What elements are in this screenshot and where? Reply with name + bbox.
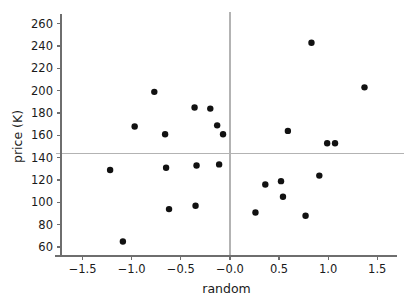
y-axis-ticks-group: 6080100120140160180200220240260 bbox=[31, 17, 61, 254]
data-point bbox=[220, 131, 226, 137]
data-point bbox=[285, 128, 291, 134]
y-tick-label: 200 bbox=[31, 84, 53, 98]
data-point bbox=[332, 140, 338, 146]
y-tick-label: 100 bbox=[31, 195, 53, 209]
data-point bbox=[163, 165, 169, 171]
scatter-plot-figure: −1.5−1.0−0.5−0.00.51.01.5 60801001201401… bbox=[0, 0, 407, 302]
y-tick-label: 80 bbox=[38, 218, 53, 232]
data-point bbox=[308, 39, 314, 45]
y-tick-label: 160 bbox=[31, 128, 53, 142]
data-point bbox=[316, 172, 322, 178]
data-point bbox=[166, 206, 172, 212]
data-point bbox=[192, 203, 198, 209]
y-tick-label: 260 bbox=[31, 17, 53, 31]
x-tick-label: 1.5 bbox=[368, 262, 386, 276]
y-tick-label: 240 bbox=[31, 39, 53, 53]
y-tick-label: 180 bbox=[31, 106, 53, 120]
data-point bbox=[162, 131, 168, 137]
x-tick-label: 0.5 bbox=[270, 262, 288, 276]
reference-lines-group bbox=[56, 12, 404, 260]
x-tick-label: −0.0 bbox=[216, 262, 244, 276]
y-axis-label: price (K) bbox=[10, 110, 25, 163]
scatter-plot-canvas: −1.5−1.0−0.5−0.00.51.01.5 60801001201401… bbox=[0, 0, 407, 302]
data-point bbox=[207, 105, 213, 111]
data-point bbox=[193, 162, 199, 168]
y-tick-label: 220 bbox=[31, 61, 53, 75]
data-points-group bbox=[107, 39, 368, 244]
data-point bbox=[252, 209, 258, 215]
data-point bbox=[361, 84, 367, 90]
data-point bbox=[107, 167, 113, 173]
data-point bbox=[324, 140, 330, 146]
data-point bbox=[120, 238, 126, 244]
x-tick-label: −1.5 bbox=[69, 262, 97, 276]
data-point bbox=[278, 178, 284, 184]
data-point bbox=[191, 104, 197, 110]
data-point bbox=[131, 123, 137, 129]
x-tick-label: 1.0 bbox=[319, 262, 337, 276]
data-point bbox=[280, 194, 286, 200]
y-tick-label: 120 bbox=[31, 173, 53, 187]
y-tick-label: 140 bbox=[31, 151, 53, 165]
x-axis-ticks-group: −1.5−1.0−0.5−0.00.51.01.5 bbox=[69, 256, 387, 276]
y-tick-label: 60 bbox=[38, 240, 53, 254]
data-point bbox=[302, 213, 308, 219]
data-point bbox=[151, 89, 157, 95]
data-point bbox=[262, 181, 268, 187]
x-tick-label: −1.0 bbox=[118, 262, 146, 276]
x-tick-label: −0.5 bbox=[167, 262, 195, 276]
data-point bbox=[216, 161, 222, 167]
x-axis-label: random bbox=[202, 281, 250, 296]
data-point bbox=[214, 122, 220, 128]
